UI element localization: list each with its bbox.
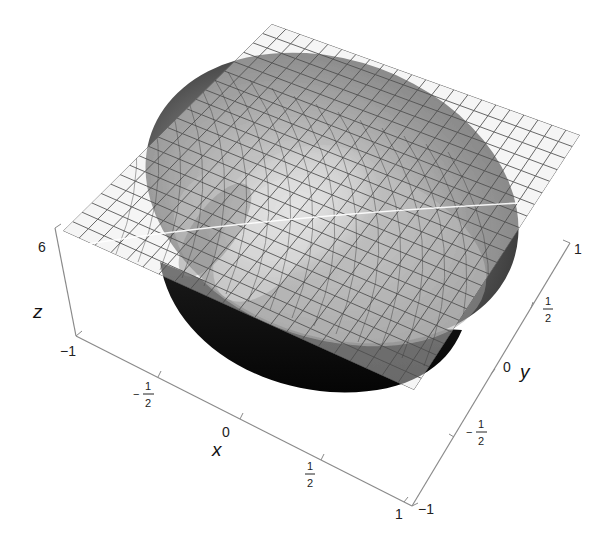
surface-plot: 6 z −1 − 1 2 0 x 1 2 1 −1 − 1 2 0 y 1 2 … (0, 0, 610, 546)
y-axis-label: y (518, 361, 531, 382)
x-tick-0: 0 (222, 424, 230, 440)
svg-text:2: 2 (145, 397, 151, 409)
y-tick-neg-half: − 1 2 (466, 418, 487, 447)
y-tick-1: 1 (574, 241, 582, 257)
x-tick-neg-half: − 1 2 (133, 380, 154, 409)
svg-text:−: − (466, 426, 472, 438)
intersect-plane (63, 24, 580, 390)
z-axis-line (55, 228, 76, 336)
y-tick-neg1: −1 (418, 501, 434, 517)
svg-text:1: 1 (145, 380, 151, 392)
svg-text:1: 1 (307, 460, 313, 472)
svg-text:1: 1 (545, 295, 551, 307)
svg-text:2: 2 (307, 477, 313, 489)
x-tick-neg1: −1 (60, 343, 76, 359)
svg-text:2: 2 (545, 312, 551, 324)
x-tick-1: 1 (395, 506, 403, 522)
svg-text:1: 1 (478, 418, 484, 430)
x-axis-label: x (211, 439, 223, 460)
svg-text:2: 2 (478, 435, 484, 447)
y-tick-half: 1 2 (543, 295, 553, 324)
z-tick-6: 6 (38, 239, 46, 255)
z-axis-label: z (32, 301, 43, 322)
y-tick-0: 0 (503, 359, 511, 375)
svg-text:−: − (133, 388, 139, 400)
x-tick-half: 1 2 (305, 460, 315, 489)
